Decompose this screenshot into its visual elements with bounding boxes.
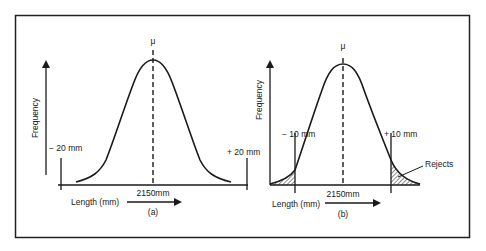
frequency-axis-label: Frequency	[30, 97, 40, 138]
normal-distribution-figure: Frequency μ − 20 mm + 20 mm 2150mm Lengt…	[0, 0, 486, 251]
mean-label: μ	[341, 41, 346, 51]
rejects-leader-line	[398, 166, 423, 177]
rejects-label: Rejects	[425, 159, 453, 169]
center-value-label: 2150mm	[136, 188, 169, 198]
panel-b: Frequency μ − 10 mm + 10 mm Rejects 2150…	[254, 41, 453, 219]
mean-label: μ	[151, 36, 156, 46]
lower-limit-label: − 20 mm	[49, 143, 82, 153]
upper-limit-label: + 10 mm	[384, 129, 417, 139]
center-value-label: 2150mm	[326, 189, 359, 199]
panel-caption: (a)	[148, 207, 159, 217]
upper-reject-region	[391, 160, 420, 185]
upper-limit-label: + 20 mm	[227, 147, 260, 157]
length-axis-label: Length (mm)	[272, 199, 320, 209]
bell-curve	[270, 64, 420, 184]
lower-limit-label: − 10 mm	[282, 129, 315, 139]
length-axis-label: Length (mm)	[71, 197, 119, 207]
frequency-axis-label: Frequency	[254, 79, 264, 120]
panel-caption: (b)	[338, 209, 349, 219]
panel-a: Frequency μ − 20 mm + 20 mm 2150mm Lengt…	[30, 36, 260, 217]
